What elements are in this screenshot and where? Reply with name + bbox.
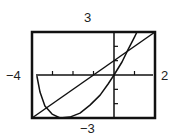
graph-window [0, 0, 174, 138]
